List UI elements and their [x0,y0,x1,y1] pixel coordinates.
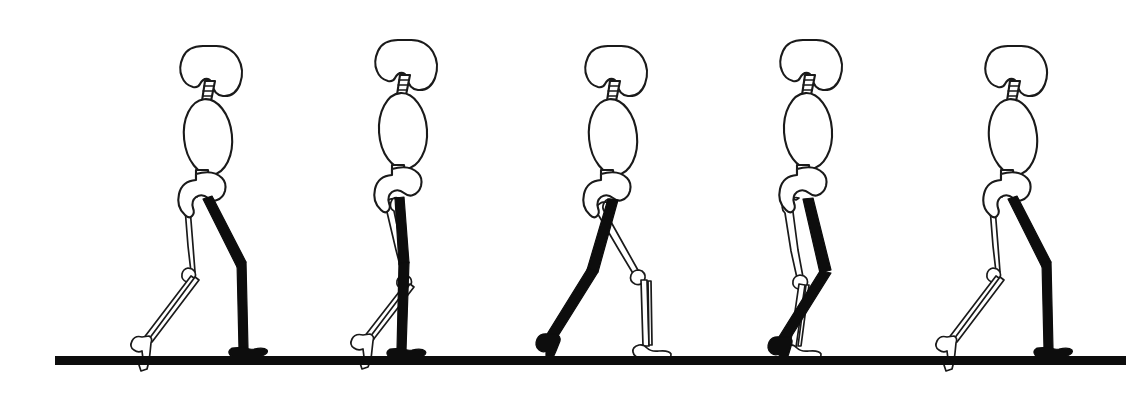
near-tibia-icon [1042,262,1053,349]
gait-cycle-illustration: Human Walking Gait Cycle — Skeletal Side… [0,0,1133,399]
gait-svg-canvas [0,0,1133,399]
canvas-background [0,0,1133,399]
far-fibula-icon [648,281,652,345]
near-tibia-icon [237,262,248,349]
ground-line [55,356,1126,365]
